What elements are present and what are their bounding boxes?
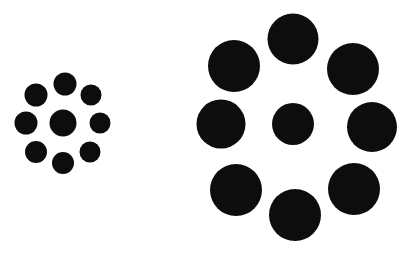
right-circle-cluster [197, 14, 398, 242]
left-cluster-surround-disc-8 [25, 84, 48, 107]
left-cluster-surround-disc-1 [54, 73, 77, 96]
left-cluster-surround-disc-7 [15, 112, 38, 135]
left-cluster-surround-disc-3 [90, 113, 111, 134]
left-cluster-center-disc [50, 110, 77, 137]
right-cluster-surround-disc-4 [328, 163, 380, 215]
left-cluster-surround-disc-2 [81, 85, 102, 106]
right-cluster-surround-disc-7 [197, 100, 246, 149]
left-cluster-surround-disc-5 [52, 152, 74, 174]
left-cluster-surround-disc-6 [25, 141, 47, 163]
right-cluster-surround-disc-1 [268, 14, 319, 65]
right-cluster-surround-disc-3 [347, 102, 397, 152]
left-circle-cluster [15, 73, 111, 175]
right-cluster-surround-disc-8 [208, 40, 260, 92]
right-cluster-center-disc [272, 103, 314, 145]
illusion-canvas [0, 0, 416, 254]
left-cluster-surround-disc-4 [80, 142, 101, 163]
right-cluster-surround-disc-5 [269, 189, 321, 241]
ebbinghaus-illusion-figure [0, 0, 416, 254]
right-cluster-surround-disc-2 [327, 43, 379, 95]
right-cluster-surround-disc-6 [210, 164, 262, 216]
